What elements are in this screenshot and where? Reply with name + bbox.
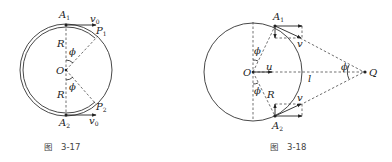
- label-O: O: [243, 67, 251, 78]
- diagram-canvas: A1 v0 P1 R ϕ O ϕ R P2 A2 v0 图3-17: [0, 0, 392, 162]
- label-O: O: [56, 65, 64, 76]
- point-Q: [363, 70, 366, 73]
- point-A2: [273, 114, 276, 117]
- angle-arc-top: [66, 60, 73, 63]
- label-R-bottom: R: [56, 89, 65, 100]
- arrow-A1-velocity-v: [275, 26, 301, 38]
- label-v0-bottom: v0: [89, 115, 99, 127]
- point-A1: [273, 24, 276, 27]
- line-v-top-to-Q-dashed: [300, 38, 364, 72]
- label-phi-Q: ϕ: [341, 61, 348, 72]
- label-Q: Q: [369, 67, 377, 78]
- point-O: [252, 71, 255, 74]
- label-phi-bottom: ϕ: [254, 85, 261, 96]
- label-v0-top: v0: [90, 13, 100, 25]
- label-P2: P2: [95, 101, 107, 113]
- label-phi-top: ϕ: [254, 45, 261, 56]
- inner-track-arc-right-bottom: [66, 102, 95, 113]
- label-P1: P1: [95, 25, 107, 37]
- label-phi-top: ϕ: [69, 46, 76, 57]
- point-O: [65, 69, 68, 72]
- angle-arc-bottom: [253, 83, 258, 84]
- inner-track-arc-right-top: [66, 27, 95, 38]
- label-R: R: [266, 89, 275, 100]
- figure-caption-3-18: 图3-18: [270, 142, 306, 152]
- figure-caption-3-17: 图3-17: [44, 142, 80, 152]
- label-A2: A2: [271, 120, 283, 132]
- figure-3-18: A1 v ϕ O u l ϕ Q ϕ R v A2 图3-18: [204, 11, 377, 152]
- label-A2: A2: [58, 117, 70, 129]
- figure-3-17: A1 v0 P1 R ϕ O ϕ R P2 A2 v0 图3-17: [20, 9, 112, 152]
- label-l: l: [308, 73, 311, 84]
- label-v-bottom: v: [297, 92, 303, 103]
- label-R-top: R: [56, 38, 65, 49]
- label-phi-bottom: ϕ: [69, 81, 76, 92]
- label-A1: A1: [272, 11, 284, 23]
- label-u: u: [266, 61, 272, 72]
- angle-arc-bottom: [66, 77, 73, 80]
- label-v-top: v: [297, 38, 303, 49]
- label-A1: A1: [58, 9, 70, 21]
- angle-arc-top: [253, 60, 258, 61]
